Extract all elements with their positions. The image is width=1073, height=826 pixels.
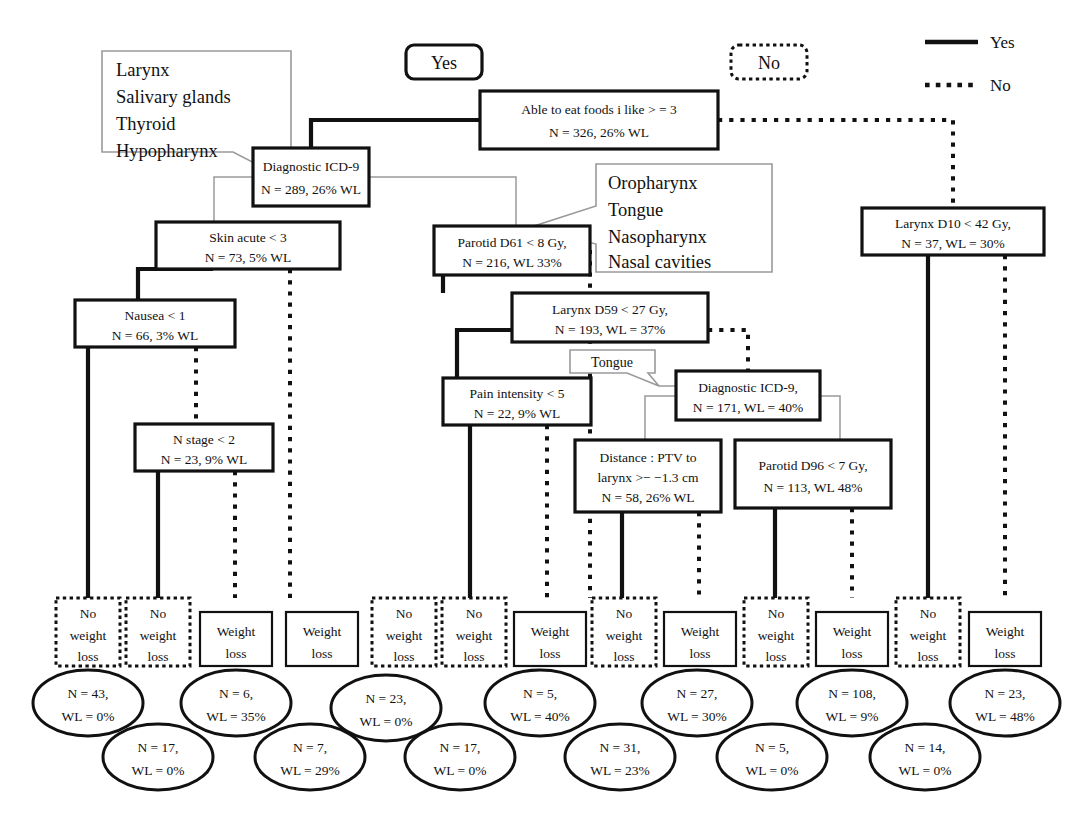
terminal-t10 bbox=[717, 724, 827, 790]
terminal-t11-n: N = 108, bbox=[828, 686, 876, 701]
leaf-l8-line1: No bbox=[616, 606, 633, 621]
node-n11-line1: Distance : PTV to bbox=[600, 450, 697, 465]
node-n5-line1: Parotid D61 < 8 Gy, bbox=[457, 235, 566, 250]
terminal-t10-wl: WL = 0% bbox=[746, 763, 799, 778]
leaf-l5-line2: weight bbox=[386, 628, 423, 643]
node-n2-line1: Diagnostic ICD-9 bbox=[263, 159, 360, 174]
terminal-t12-n: N = 14, bbox=[905, 740, 946, 755]
leaf-l6-line1: No bbox=[466, 606, 483, 621]
node-n11-line2: larynx >− −1.3 cm bbox=[598, 470, 699, 485]
node-n9-line1: Pain intensity < 5 bbox=[470, 386, 565, 401]
terminal-t8-wl: WL = 23% bbox=[590, 763, 650, 778]
leaf-l3-line1: Weight bbox=[217, 624, 256, 639]
terminal-t5-n: N = 23, bbox=[366, 691, 407, 706]
caption-yes-label: Yes bbox=[431, 53, 457, 73]
terminal-t2 bbox=[103, 724, 213, 790]
node-n8-line2: N = 23, 9% WL bbox=[161, 452, 247, 467]
node-n11-line3: N = 58, 26% WL bbox=[601, 490, 694, 505]
leaf-l4-line1: Weight bbox=[303, 624, 342, 639]
leaf-l5-line3: loss bbox=[393, 649, 414, 664]
terminal-t7-n: N = 5, bbox=[523, 686, 557, 701]
node-n7-line2: N = 193, WL = 37% bbox=[555, 322, 665, 337]
terminal-t1-wl: WL = 0% bbox=[62, 709, 115, 724]
terminal-t9 bbox=[642, 670, 752, 736]
leaf-l2-line1: No bbox=[150, 606, 167, 621]
leaf-l10-line1: No bbox=[768, 606, 785, 621]
node-n6-line2: N = 66, 3% WL bbox=[112, 328, 198, 343]
terminal-t6 bbox=[405, 724, 515, 790]
terminal-t1-n: N = 43, bbox=[68, 686, 109, 701]
legend-yes-label: Yes bbox=[990, 33, 1015, 52]
terminal-t12 bbox=[870, 724, 980, 790]
terminal-t10-n: N = 5, bbox=[755, 740, 789, 755]
leaf-l9-line2: loss bbox=[689, 646, 710, 661]
leaf-l13-line1: Weight bbox=[986, 624, 1025, 639]
node-n2-line2: N = 289, 26% WL bbox=[261, 182, 361, 197]
caption-no-label: No bbox=[758, 53, 780, 73]
node-n2[interactable] bbox=[253, 148, 369, 206]
node-n10-line1: Diagnostic ICD-9, bbox=[698, 380, 798, 395]
leaf-l3-line2: loss bbox=[225, 646, 246, 661]
terminal-t8 bbox=[565, 724, 675, 790]
leaf-l2-line3: loss bbox=[147, 649, 168, 664]
node-n1-line1: Able to eat foods i like > = 3 bbox=[521, 102, 677, 117]
terminal-t11 bbox=[797, 670, 907, 736]
leaf-l1-line1: No bbox=[80, 606, 97, 621]
node-layer: Yes No Yes No Able to eat foods i like >… bbox=[0, 0, 1073, 826]
node-n1[interactable] bbox=[480, 91, 718, 149]
node-n12-line1: Parotid D96 < 7 Gy, bbox=[758, 458, 867, 473]
leaf-l13-line2: loss bbox=[994, 646, 1015, 661]
node-n9-line2: N = 22, 9% WL bbox=[474, 406, 560, 421]
leaf-l6-line2: weight bbox=[456, 628, 493, 643]
node-n5-line2: N = 216, WL 33% bbox=[462, 255, 561, 270]
terminal-t5-wl: WL = 0% bbox=[360, 714, 413, 729]
terminal-t13-wl: WL = 48% bbox=[975, 709, 1035, 724]
leaf-l11-line2: loss bbox=[841, 646, 862, 661]
leaf-l8-line3: loss bbox=[613, 649, 634, 664]
leaf-l9-line1: Weight bbox=[681, 624, 720, 639]
leaf-l7-line1: Weight bbox=[531, 624, 570, 639]
terminal-t7-wl: WL = 40% bbox=[510, 709, 570, 724]
node-n7-line1: Larynx D59 < 27 Gy, bbox=[552, 302, 668, 317]
node-n4-line1: Skin acute < 3 bbox=[209, 230, 287, 245]
leaf-l12-line3: loss bbox=[917, 649, 938, 664]
terminal-t13-n: N = 23, bbox=[985, 686, 1026, 701]
node-n3-line1: Larynx D10 < 42 Gy, bbox=[895, 216, 1011, 231]
terminal-t4 bbox=[255, 724, 365, 790]
node-n4-line2: N = 73, 5% WL bbox=[205, 250, 291, 265]
leaf-l2-line2: weight bbox=[140, 628, 177, 643]
terminal-t4-n: N = 7, bbox=[293, 740, 327, 755]
node-n12-line2: N = 113, WL 48% bbox=[764, 480, 863, 495]
terminal-t13 bbox=[950, 670, 1060, 736]
terminal-t2-wl: WL = 0% bbox=[132, 763, 185, 778]
terminal-t7 bbox=[485, 670, 595, 736]
leaf-l1-line2: weight bbox=[70, 628, 107, 643]
terminal-t9-wl: WL = 30% bbox=[667, 709, 727, 724]
node-n6-line1: Nausea < 1 bbox=[125, 308, 186, 323]
terminal-t6-n: N = 17, bbox=[440, 740, 481, 755]
leaf-l1-line3: loss bbox=[77, 649, 98, 664]
node-n1-line2: N = 326, 26% WL bbox=[549, 125, 649, 140]
leaf-l10-line3: loss bbox=[765, 649, 786, 664]
leaf-l8-line2: weight bbox=[606, 628, 643, 643]
leaf-l7-line2: loss bbox=[539, 646, 560, 661]
leaf-l10-line2: weight bbox=[758, 628, 795, 643]
node-n8-line1: N stage < 2 bbox=[173, 432, 235, 447]
terminal-t12-wl: WL = 0% bbox=[899, 763, 952, 778]
terminal-t3-n: N = 6, bbox=[219, 686, 253, 701]
leaf-l12-line1: No bbox=[920, 606, 937, 621]
node-n3-line2: N = 37, WL = 30% bbox=[901, 236, 1005, 251]
node-n10-line2: N = 171, WL = 40% bbox=[693, 400, 803, 415]
terminal-t1 bbox=[33, 670, 143, 736]
node-n12[interactable] bbox=[735, 440, 891, 508]
leaf-l5-line1: No bbox=[396, 606, 413, 621]
terminal-t8-n: N = 31, bbox=[600, 740, 641, 755]
decision-tree-figure: Larynx Salivary glands Thyroid Hypophary… bbox=[0, 0, 1073, 826]
legend-no-label: No bbox=[990, 76, 1011, 95]
terminal-t3-wl: WL = 35% bbox=[206, 709, 266, 724]
leaf-l11-line1: Weight bbox=[833, 624, 872, 639]
leaf-l4-line2: loss bbox=[311, 646, 332, 661]
terminal-t2-n: N = 17, bbox=[138, 740, 179, 755]
terminal-t4-wl: WL = 29% bbox=[280, 763, 340, 778]
leaf-l6-line3: loss bbox=[463, 649, 484, 664]
